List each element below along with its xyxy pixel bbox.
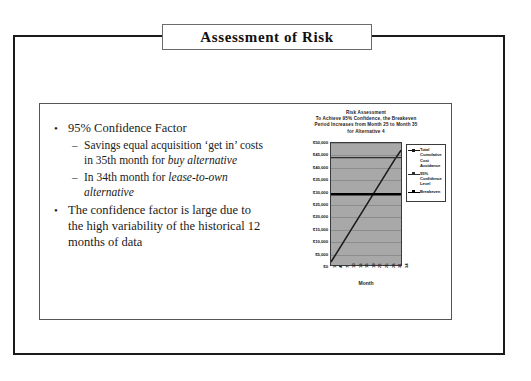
bullet-marker: • bbox=[54, 120, 68, 136]
chart-x-tick-label: 4 bbox=[338, 266, 343, 268]
risk-assessment-chart: Risk AssessmentTo Achieve 95% Confidence… bbox=[284, 108, 448, 298]
chart-x-tick-label: 28 bbox=[391, 263, 396, 268]
chart-legend: Total Cumulative Cost Avoidance95% Confi… bbox=[406, 144, 446, 202]
bullet-marker: • bbox=[54, 202, 68, 218]
chart-y-axis: $50,000$45,000$40,000$35,000$30,000$25,0… bbox=[284, 142, 328, 266]
slide-root: Assessment of Risk •95% Confidence Facto… bbox=[0, 0, 531, 381]
chart-x-tick-label: 31 bbox=[397, 263, 402, 268]
page-title: Assessment of Risk bbox=[200, 29, 333, 46]
chart-plot-area bbox=[330, 142, 402, 266]
bullet-list: •95% Confidence Factor–Savings equal acq… bbox=[54, 120, 264, 252]
chart-x-tick-label: 16 bbox=[364, 263, 369, 268]
bullet-text-segment: 95% Confidence Factor bbox=[68, 121, 187, 135]
chart-x-tick-label: 22 bbox=[377, 263, 382, 268]
chart-y-tick-label: $0 bbox=[284, 264, 328, 269]
chart-y-tick-label: $35,000 bbox=[284, 177, 328, 182]
chart-legend-label: 95% Confidence Level bbox=[420, 171, 444, 187]
bullet-text-segment: buy alternative bbox=[168, 154, 237, 166]
bullet-item: •95% Confidence Factor bbox=[54, 120, 264, 136]
bullet-marker: – bbox=[72, 170, 84, 185]
bullet-text: The confidence factor is large due to th… bbox=[68, 202, 264, 250]
chart-legend-item: 95% Confidence Level bbox=[408, 171, 444, 187]
chart-series-layer bbox=[331, 143, 401, 265]
bullet-text: In 34th month for lease-to-own alternati… bbox=[84, 170, 264, 200]
chart-body: $50,000$45,000$40,000$35,000$30,000$25,0… bbox=[284, 140, 448, 290]
chart-title: Risk AssessmentTo Achieve 95% Confidence… bbox=[284, 108, 448, 135]
chart-legend-swatch bbox=[408, 172, 420, 178]
chart-y-tick-label: $30,000 bbox=[284, 189, 328, 194]
chart-x-tick-label: 34 bbox=[404, 263, 409, 268]
chart-x-tick-label: 10 bbox=[351, 263, 356, 268]
chart-legend-swatch bbox=[408, 190, 420, 196]
chart-y-tick-label: $5,000 bbox=[284, 251, 328, 256]
bullet-text-segment: The confidence factor is large due to th… bbox=[68, 203, 260, 249]
bullet-item: –Savings equal acquisition ‘get in’ cost… bbox=[72, 138, 264, 168]
chart-x-tick-label: 1 bbox=[332, 266, 337, 268]
chart-x-tick-label: 7 bbox=[345, 266, 350, 268]
slide-content-box: •95% Confidence Factor–Savings equal acq… bbox=[39, 103, 452, 320]
chart-x-axis-title: Month bbox=[330, 280, 402, 286]
chart-x-tick-label: 25 bbox=[384, 263, 389, 268]
slide-title-box: Assessment of Risk bbox=[162, 24, 372, 50]
bullet-item: •The confidence factor is large due to t… bbox=[54, 202, 264, 250]
chart-x-tick-label: 13 bbox=[358, 263, 363, 268]
chart-y-tick-label: $15,000 bbox=[284, 226, 328, 231]
chart-series-cumulative-cost-avoidance bbox=[331, 150, 401, 262]
chart-legend-item: Breakeven bbox=[408, 189, 444, 196]
chart-y-tick-label: $50,000 bbox=[284, 140, 328, 145]
chart-title-line: for Alternative 4 bbox=[284, 129, 448, 135]
chart-y-tick-label: $40,000 bbox=[284, 164, 328, 169]
chart-y-tick-label: $45,000 bbox=[284, 152, 328, 157]
chart-x-tick-label: 19 bbox=[371, 263, 376, 268]
bullet-marker: – bbox=[72, 138, 84, 153]
chart-legend-swatch bbox=[408, 148, 420, 154]
chart-legend-label: Total Cumulative Cost Avoidance bbox=[420, 147, 444, 169]
chart-legend-label: Breakeven bbox=[420, 189, 440, 194]
bullet-text-segment: In 34th month for bbox=[84, 171, 168, 183]
bullet-item: –In 34th month for lease-to-own alternat… bbox=[72, 170, 264, 200]
chart-y-tick-label: $10,000 bbox=[284, 239, 328, 244]
chart-legend-item: Total Cumulative Cost Avoidance bbox=[408, 147, 444, 169]
chart-y-tick-label: $20,000 bbox=[284, 214, 328, 219]
bullet-text: Savings equal acquisition ‘get in’ costs… bbox=[84, 138, 264, 168]
chart-y-tick-label: $25,000 bbox=[284, 202, 328, 207]
bullet-text: 95% Confidence Factor bbox=[68, 120, 187, 136]
